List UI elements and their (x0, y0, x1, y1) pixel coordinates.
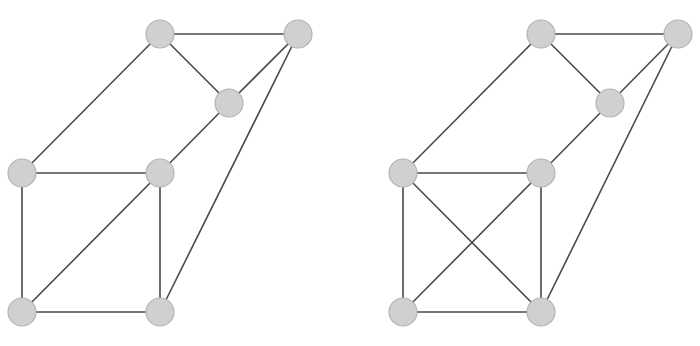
node-D (389, 159, 417, 187)
node-C (215, 89, 243, 117)
node-F (8, 298, 36, 326)
edge-A-D (22, 34, 160, 173)
graph-right (389, 20, 692, 326)
node-A (527, 20, 555, 48)
node-G (146, 298, 174, 326)
edge-A-D (403, 34, 541, 173)
node-E (146, 159, 174, 187)
graph-diagrams (0, 0, 700, 346)
node-A (146, 20, 174, 48)
node-D (8, 159, 36, 187)
node-E (527, 159, 555, 187)
graph-left (8, 20, 312, 326)
edge-E-F (22, 173, 160, 312)
edge-B-G (541, 34, 678, 312)
node-C (596, 89, 624, 117)
node-B (664, 20, 692, 48)
node-B (284, 20, 312, 48)
edge-C-E (160, 103, 229, 173)
edge-B-G (160, 34, 298, 312)
node-G (527, 298, 555, 326)
edge-C-E (541, 103, 610, 173)
node-F (389, 298, 417, 326)
edge-A-C (160, 34, 229, 103)
edge-A-C (541, 34, 610, 103)
edge-B-C (229, 34, 298, 103)
